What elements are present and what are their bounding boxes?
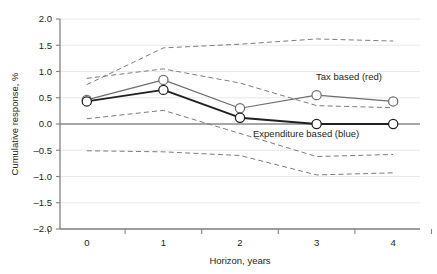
chart-background xyxy=(0,0,437,274)
x-tick-label: 1 xyxy=(161,237,166,248)
x-tick-label: 4 xyxy=(391,237,396,248)
chart-figure: 2.01.51.00.50.0–0.5–1.0–1.5–2.0 01234 Cu… xyxy=(0,0,437,274)
data-point-marker xyxy=(235,113,244,122)
x-tick-label: 3 xyxy=(314,237,319,248)
data-point-marker xyxy=(389,119,398,128)
y-tick-label: 0.0 xyxy=(39,118,52,129)
y-tick-label: 1.0 xyxy=(39,66,52,77)
y-tick-label: 2.0 xyxy=(39,13,52,24)
data-point-marker xyxy=(159,85,168,94)
data-point-marker xyxy=(389,97,398,106)
data-point-marker xyxy=(82,97,91,106)
y-tick-label: –2.0 xyxy=(34,223,53,234)
x-tick-label: 2 xyxy=(237,237,242,248)
y-tick-label: 1.5 xyxy=(39,40,52,51)
data-point-marker xyxy=(159,75,168,84)
y-axis-title: Cumulative response, % xyxy=(9,72,20,176)
expenditure-based-series-label: Expenditure based (blue) xyxy=(253,128,359,139)
data-point-marker xyxy=(312,91,321,100)
x-axis-title: Horizon, years xyxy=(209,255,270,266)
x-tick-label: 0 xyxy=(84,237,89,248)
data-point-marker xyxy=(235,104,244,113)
cumulative-response-line-chart: 2.01.51.00.50.0–0.5–1.0–1.5–2.0 01234 Cu… xyxy=(0,0,437,274)
y-tick-label: 0.5 xyxy=(39,92,52,103)
y-tick-label: –1.5 xyxy=(34,197,53,208)
tax-based-series-label: Tax based (red) xyxy=(316,71,382,82)
y-tick-label: –0.5 xyxy=(34,145,53,156)
y-tick-label: –1.0 xyxy=(34,171,53,182)
